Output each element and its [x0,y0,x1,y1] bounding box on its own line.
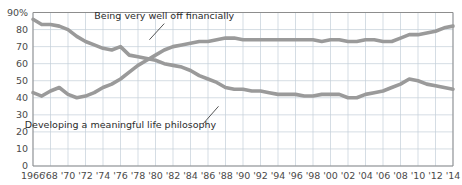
x-tick-label: '96 [288,170,303,181]
x-tick-label: '74 [96,170,111,181]
x-axis-tick-labels: 1966'68'70'72'74'76'78'80'82'84'86'88'90… [21,170,460,181]
y-tick-label: 50 [16,75,28,86]
y-tick-label: 10 [16,143,28,154]
x-tick-label: '90 [236,170,251,181]
series-label: Developing a meaningful life philosophy [25,119,217,130]
leader-line-financially [149,24,164,40]
y-tick-label: 80 [16,24,28,35]
x-tick-label: '04 [358,170,373,181]
x-tick-label: '06 [376,170,391,181]
x-tick-label: '88 [218,170,233,181]
line-chart: 0102030405060708090% 1966'68'70'72'74'76… [0,0,462,185]
x-tick-label: '02 [341,170,356,181]
x-tick-label: 1966 [21,170,45,181]
x-tick-label: '70 [61,170,76,181]
chart-container: 0102030405060708090% 1966'68'70'72'74'76… [0,0,462,185]
y-tick-label: 70 [16,41,28,52]
x-tick-label: '78 [131,170,146,181]
x-tick-label: '76 [113,170,128,181]
x-tick-label: '82 [166,170,181,181]
x-tick-label: '94 [271,170,286,181]
x-tick-label: '10 [411,170,426,181]
x-tick-label: '00 [323,170,338,181]
x-tick-label: '08 [393,170,408,181]
x-tick-label: '80 [148,170,163,181]
x-tick-label: '72 [78,170,93,181]
y-axis-tick-labels: 0102030405060708090% [7,7,28,172]
series-label: Being very well off financially [94,10,234,21]
x-tick-label: '68 [43,170,58,181]
y-tick-label: 90% [7,7,28,18]
y-tick-label: 40 [16,92,28,103]
y-tick-label: 60 [16,58,28,69]
x-tick-label: '98 [306,170,321,181]
x-tick-label: '92 [253,170,268,181]
x-tick-label: '84 [183,170,198,181]
x-tick-label: '14 [446,170,461,181]
x-tick-label: '12 [428,170,443,181]
x-tick-label: '86 [201,170,216,181]
